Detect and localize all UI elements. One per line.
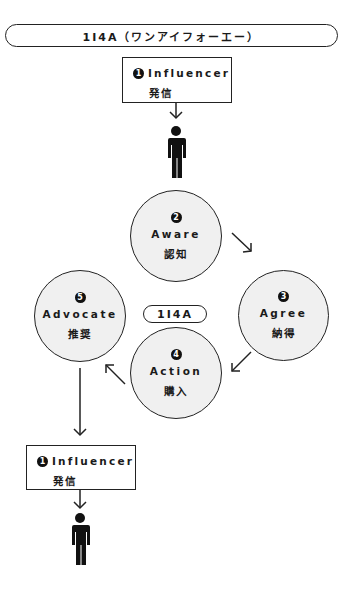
- person-icon: [168, 126, 186, 178]
- stage-label-jp: 購入: [164, 383, 188, 398]
- step-number-badge: 1: [37, 456, 48, 467]
- arrow-icon: [232, 233, 251, 252]
- arrow-icon: [170, 103, 182, 118]
- stage-advocate: 5 Advocate 推奨: [34, 270, 126, 362]
- step-number-badge: 2: [171, 212, 182, 223]
- step-number-badge: 4: [171, 349, 182, 360]
- influencer-label-jp: 発信: [53, 473, 77, 488]
- person-icon: [72, 513, 90, 565]
- stage-label-jp: 納得: [272, 325, 296, 340]
- arrow-icon: [74, 490, 86, 508]
- step-number-badge: 5: [75, 292, 86, 303]
- stage-agree: 3 Agree 納得: [238, 270, 329, 361]
- arrow-icon: [74, 368, 86, 435]
- stage-label-en: Advocate: [42, 308, 117, 320]
- cycle-center-label: 1I4A: [143, 305, 207, 323]
- influencer-label-en: Influencer: [52, 455, 134, 467]
- stage-aware: 2 Aware 認知: [130, 190, 222, 282]
- arrow-icon: [232, 352, 251, 371]
- step-number-badge: 3: [278, 291, 289, 302]
- stage-label-en: Action: [150, 365, 203, 377]
- arrow-icon: [106, 365, 125, 384]
- stage-label-jp: 推奨: [68, 326, 92, 341]
- stage-label-en: Aware: [151, 228, 201, 240]
- influencer-box-bottom: 1Influencer 発信: [26, 445, 136, 490]
- stage-label-en: Agree: [260, 307, 308, 319]
- stage-action: 4 Action 購入: [130, 327, 222, 419]
- stage-label-jp: 認知: [164, 246, 188, 261]
